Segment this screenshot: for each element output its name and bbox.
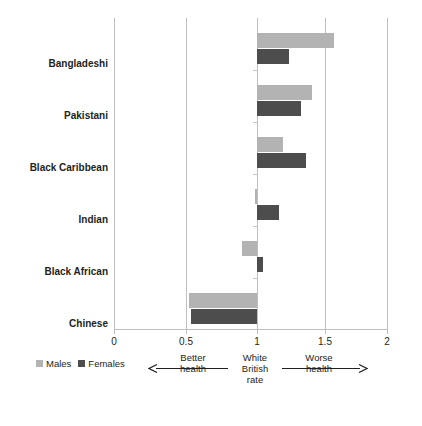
bar-black-african-males <box>242 241 257 256</box>
legend-item-females: Females <box>78 358 124 369</box>
arrow-right-icon <box>282 364 368 373</box>
x-tick-label-0-5: 0.5 <box>179 336 193 347</box>
bar-chinese-males <box>189 293 257 308</box>
x-tick-label-1: 1 <box>254 336 260 347</box>
bar-group-pakistani <box>114 85 388 137</box>
category-label-bangladeshi: Bangladeshi <box>4 58 108 69</box>
bar-chinese-females <box>191 309 257 324</box>
legend-label-females: Females <box>88 358 124 369</box>
bar-bangladeshi-males <box>257 33 334 48</box>
bar-group-bangladeshi <box>114 33 388 85</box>
x-tick-label-0: 0 <box>111 336 117 347</box>
plot-area <box>114 18 388 330</box>
x-tick-label-1-5: 1.5 <box>318 336 332 347</box>
bar-group-indian <box>114 189 388 241</box>
bar-pakistani-females <box>257 101 301 116</box>
legend-item-males: Males <box>36 358 71 369</box>
category-label-black-african: Black African <box>4 266 108 277</box>
x-tick-label-2: 2 <box>384 336 390 347</box>
category-label-chinese: Chinese <box>4 318 108 329</box>
bar-group-black-caribbean <box>114 137 388 189</box>
annotation-worse-line1: Worse <box>288 352 350 363</box>
bar-black-african-females <box>257 257 263 272</box>
annotation-white-british-rate: White British rate <box>228 352 282 385</box>
bar-black-caribbean-females <box>257 153 306 168</box>
chart-container: Bangladeshi Pakistani Black Caribbean In… <box>0 0 422 426</box>
category-label-pakistani: Pakistani <box>4 110 108 121</box>
legend-swatch-females-icon <box>78 360 85 367</box>
bar-indian-females <box>257 205 279 220</box>
bar-group-chinese <box>114 293 388 345</box>
legend-swatch-males-icon <box>36 360 43 367</box>
bar-indian-males <box>255 189 257 204</box>
bar-bangladeshi-females <box>257 49 289 64</box>
category-label-indian: Indian <box>4 214 108 225</box>
annotation-center-line2: British <box>228 363 282 374</box>
arrow-left-icon <box>148 364 228 373</box>
annotation-center-line1: White <box>228 352 282 363</box>
category-label-black-caribbean: Black Caribbean <box>4 162 108 173</box>
legend-label-males: Males <box>46 358 71 369</box>
annotation-center-line3: rate <box>228 374 282 385</box>
axis-annotation: Better health White British rate Worse h… <box>140 352 390 422</box>
bar-black-caribbean-males <box>257 137 283 152</box>
chart-legend: Males Females <box>36 358 125 369</box>
bar-group-black-african <box>114 241 388 293</box>
y-axis-labels: Bangladeshi Pakistani Black Caribbean In… <box>0 18 108 330</box>
bar-pakistani-males <box>257 85 312 100</box>
annotation-better-line1: Better <box>162 352 224 363</box>
